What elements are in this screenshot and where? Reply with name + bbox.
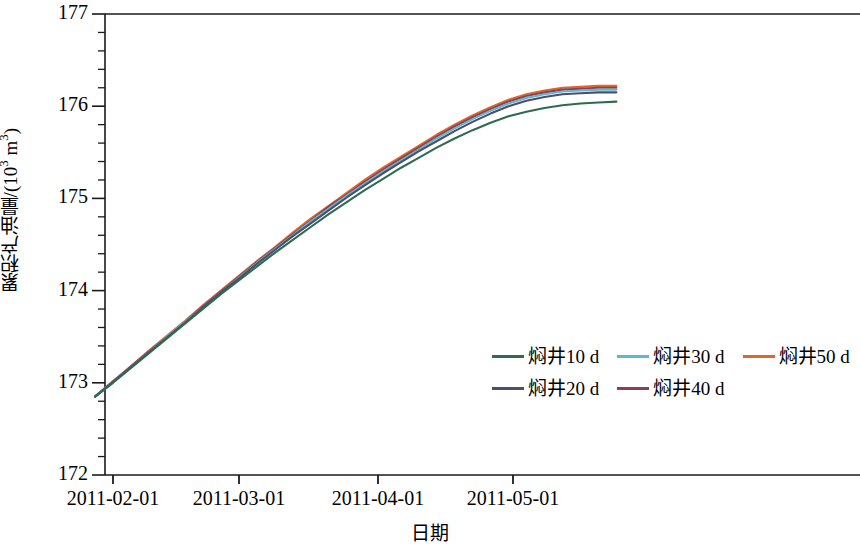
plot-area	[0, 0, 860, 551]
legend-swatch-line-icon	[743, 355, 775, 358]
y-tick-label: 175	[36, 185, 88, 208]
legend-label: 焖井40 d	[653, 379, 724, 398]
axes-frame	[105, 14, 860, 475]
legend-entry: 焖井40 d	[617, 379, 724, 398]
chart-figure: 累积产油量/(103 m3) 172173174175176177 2011-0…	[0, 0, 860, 551]
legend-label: 焖井20 d	[528, 379, 599, 398]
legend-swatch-line-icon	[492, 355, 524, 358]
legend-swatch-line-icon	[617, 387, 649, 390]
chart-legend: 焖井10 d焖井30 d焖井50 d焖井20 d焖井40 d	[492, 340, 860, 404]
legend-swatch-line-icon	[617, 355, 649, 358]
legend-entry: 焖井20 d	[492, 379, 599, 398]
axes-ticks	[92, 14, 513, 484]
legend-entry: 焖井30 d	[617, 347, 724, 366]
x-tick-label: 2011-05-01	[433, 487, 593, 510]
y-tick-label: 174	[36, 278, 88, 301]
x-tick-label: 2011-03-01	[159, 487, 319, 510]
x-axis-title: 日期	[0, 518, 860, 545]
legend-row: 焖井10 d焖井30 d焖井50 d	[492, 340, 860, 372]
y-tick-label: 173	[36, 370, 88, 393]
legend-swatch-line-icon	[492, 387, 524, 390]
y-tick-label: 176	[36, 93, 88, 116]
legend-entry: 焖井10 d	[492, 347, 599, 366]
legend-label: 焖井10 d	[528, 347, 599, 366]
y-tick-label: 177	[36, 1, 88, 24]
legend-label: 焖井30 d	[653, 347, 724, 366]
y-tick-label: 172	[36, 462, 88, 485]
legend-entry: 焖井50 d	[743, 347, 850, 366]
legend-row: 焖井20 d焖井40 d	[492, 372, 860, 404]
legend-label: 焖井50 d	[779, 347, 850, 366]
